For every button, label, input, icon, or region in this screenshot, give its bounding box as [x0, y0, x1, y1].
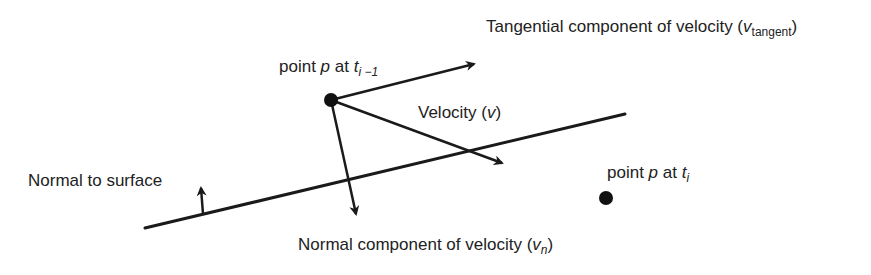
normal-component-label: Normal component of velocity (vn): [298, 236, 553, 253]
surface-line: [145, 114, 625, 228]
normal-to-surface-label: Normal to surface: [28, 172, 162, 189]
label-text: point: [607, 163, 649, 182]
symbol-p: p: [321, 57, 330, 76]
subscript: tangent: [752, 25, 792, 39]
symbol-v: v: [743, 17, 752, 36]
label-text: Velocity (: [418, 103, 487, 122]
diagram-canvas: [0, 0, 871, 275]
point-p-current: [599, 191, 613, 205]
point-previous-label: point p at ti −1: [279, 58, 378, 75]
symbol-p: p: [649, 163, 658, 182]
label-text: at: [658, 163, 682, 182]
symbol-v: v: [532, 235, 541, 254]
subscript: n: [541, 243, 548, 257]
label-text: Normal component of velocity (: [298, 235, 532, 254]
tangential-component-label: Tangential component of velocity (vtange…: [486, 18, 797, 35]
point-current-label: point p at ti: [607, 164, 689, 181]
label-text: Normal to surface: [28, 171, 162, 190]
subscript: i: [686, 171, 689, 185]
point-p-previous: [324, 93, 338, 107]
surface-normal-arrow: [201, 188, 203, 214]
label-text: at: [330, 57, 354, 76]
label-text: ): [495, 103, 501, 122]
label-text: Tangential component of velocity (: [486, 17, 743, 36]
label-text: point: [279, 57, 321, 76]
label-text: ): [548, 235, 554, 254]
subscript: i −1: [358, 65, 378, 79]
normal-component-arrow: [331, 100, 356, 214]
label-text: ): [792, 17, 798, 36]
velocity-label: Velocity (v): [418, 104, 501, 121]
